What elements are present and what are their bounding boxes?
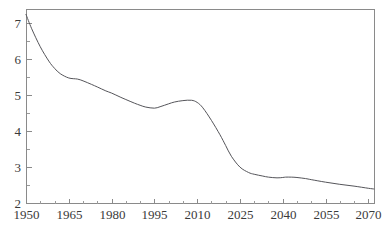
y-tick-label: 2	[15, 196, 22, 211]
line-chart: 195019651980199520102025204020552070 234…	[0, 0, 389, 238]
x-tick-label: 2070	[356, 207, 382, 222]
x-tick-label: 1980	[100, 207, 126, 222]
x-tick-label: 2010	[185, 207, 211, 222]
x-axis-tick-labels: 195019651980199520102025204020552070	[14, 207, 382, 222]
y-tick-label: 7	[15, 16, 22, 31]
x-tick-label: 1965	[57, 207, 83, 222]
x-tick-label: 1995	[142, 207, 168, 222]
y-tick-label: 5	[15, 88, 22, 103]
axis-frame	[27, 10, 375, 204]
plot-frame	[27, 10, 375, 204]
x-axis-major-ticks	[27, 199, 369, 204]
chart-container: 195019651980199520102025204020552070 234…	[0, 0, 389, 238]
x-tick-label: 2040	[271, 207, 297, 222]
x-tick-label: 2025	[228, 207, 254, 222]
data-series-group	[26, 14, 374, 189]
y-tick-label: 4	[15, 124, 22, 139]
data-line-1	[26, 14, 374, 189]
y-axis-tick-labels: 234567	[15, 16, 22, 211]
y-tick-label: 3	[15, 160, 22, 175]
y-tick-label: 6	[15, 52, 22, 67]
x-tick-label: 2055	[314, 207, 340, 222]
